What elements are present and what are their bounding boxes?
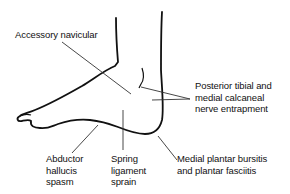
foot-diagram: Accessory navicular Posterior tibial and… <box>0 0 290 194</box>
label-abductor-hallucis: Abductor hallucis spasm <box>46 153 83 188</box>
label-accessory-navicular: Accessory navicular <box>15 29 98 41</box>
medial-malleolus-outline <box>139 68 143 88</box>
leader-abductor-hallucis <box>72 125 98 153</box>
leader-accessory-navicular <box>62 42 131 94</box>
label-spring-ligament: Spring ligament sprain <box>111 153 146 188</box>
leader-posterior-tibial-2 <box>152 99 190 100</box>
label-posterior-tibial: Posterior tibial and medial calcaneal ne… <box>195 80 272 115</box>
leader-posterior-tibial-1 <box>141 87 190 99</box>
leader-medial-plantar <box>158 136 177 160</box>
label-medial-plantar: Medial plantar bursitis and plantar fasc… <box>177 153 267 176</box>
